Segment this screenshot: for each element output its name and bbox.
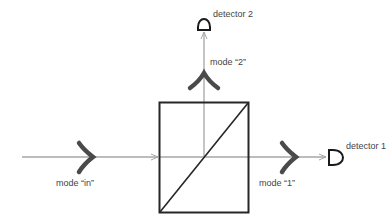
detector-1-label: detector 1 <box>346 141 386 151</box>
mode-1-label: mode “1” <box>259 178 295 188</box>
mode-2-label: mode “2” <box>210 57 246 67</box>
mode-in-label: mode “in” <box>56 178 94 188</box>
beam-splitter-diagram <box>0 0 389 224</box>
detector-1-icon <box>329 150 343 165</box>
detector-2-label: detector 2 <box>213 9 253 19</box>
detector-2-icon <box>198 19 210 30</box>
